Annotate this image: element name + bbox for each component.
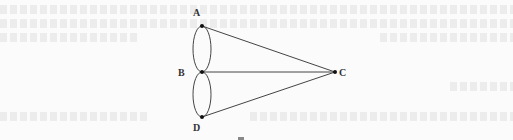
graph-diagram: A B C D xyxy=(0,0,513,140)
label-d: D xyxy=(193,122,200,133)
edge-a-c xyxy=(202,26,335,72)
edge-loop-a-b xyxy=(193,26,211,72)
node-a xyxy=(200,24,204,28)
caption-fragment xyxy=(238,137,244,140)
label-c: C xyxy=(339,67,346,78)
edges xyxy=(193,26,335,117)
label-a: A xyxy=(193,7,201,18)
edge-d-c xyxy=(202,72,335,117)
edge-loop-b-d xyxy=(193,72,211,117)
label-b: B xyxy=(178,67,185,78)
node-c xyxy=(333,70,337,74)
node-d xyxy=(200,115,204,119)
node-b xyxy=(200,70,204,74)
